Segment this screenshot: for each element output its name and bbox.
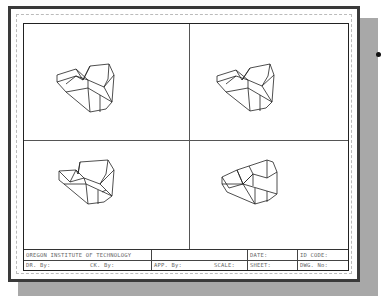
viewport-top-right[interactable] — [214, 62, 284, 124]
viewport-divider-vertical — [189, 24, 190, 249]
institution-name: OREGON INSTITUTE OF TECHNOLOGY — [24, 250, 152, 260]
bullet-point-icon — [376, 52, 381, 57]
wireframe-part-icon — [56, 158, 126, 220]
viewport-bottom-right[interactable] — [219, 158, 289, 220]
id-code-field: ID CODE: — [298, 250, 350, 260]
title-field — [152, 250, 248, 260]
viewport-divider-horizontal — [24, 140, 348, 141]
wireframe-part-icon — [219, 158, 289, 220]
title-block: OREGON INSTITUTE OF TECHNOLOGY DATE: ID … — [24, 249, 348, 270]
date-field: DATE: — [248, 250, 298, 260]
scale-field: SCALE: — [212, 260, 248, 270]
drawing-sheet: OREGON INSTITUTE OF TECHNOLOGY DATE: ID … — [8, 6, 360, 282]
viewport-top-left[interactable] — [54, 62, 124, 124]
wireframe-part-icon — [54, 62, 124, 124]
dwg-no-field: DWG. No: — [298, 260, 350, 270]
title-block-row-2: DR. By: CK. By: APP. By: SCALE: SHEET: D… — [24, 260, 348, 270]
approved-by-field: APP. By: — [152, 260, 212, 270]
checked-by-field: CK. By: — [88, 260, 152, 270]
drawing-frame: OREGON INSTITUTE OF TECHNOLOGY DATE: ID … — [23, 23, 349, 271]
viewport-bottom-left[interactable] — [56, 158, 126, 220]
wireframe-part-icon — [214, 62, 284, 124]
sheet-field: SHEET: — [248, 260, 298, 270]
drawn-by-field: DR. By: — [24, 260, 88, 270]
